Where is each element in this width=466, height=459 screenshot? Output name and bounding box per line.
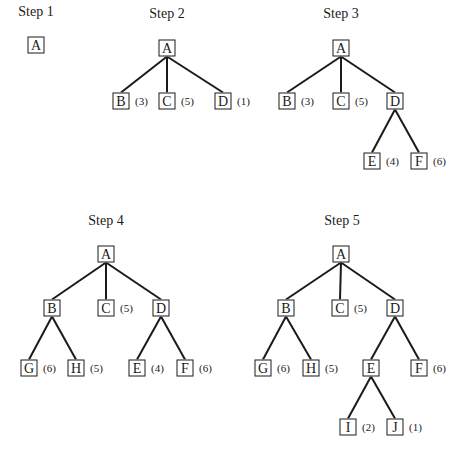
node-A: A [28,37,45,54]
node-cost-label: (2) [362,421,375,433]
node-cost-label: (1) [237,95,250,107]
node-cost-label: (5) [90,362,103,374]
edge-A-B [121,57,167,93]
node-A: A [98,246,115,263]
node-A: A [159,40,176,57]
node-cost-label: (6) [433,362,446,374]
node-G: G [255,360,272,377]
node-B: B [113,93,130,110]
node-cost-label: (6) [43,362,56,374]
step-title: Step 5 [324,213,359,229]
node-H: H [303,360,320,377]
edge-D-E [372,110,395,153]
node-A: A [333,40,350,57]
node-H: H [68,360,85,377]
node-D: D [387,300,404,317]
node-J: J [387,419,404,436]
edge-B-G [29,317,52,360]
node-cost-label: (6) [433,155,446,167]
step-title: Step 1 [18,4,53,20]
edge-B-H [286,317,311,360]
edge-D-F [161,317,185,360]
edge-A-D [167,57,223,93]
node-cost-label: (6) [277,362,290,374]
node-I: I [340,419,357,436]
edge-A-C [340,263,341,300]
edges-layer [0,0,466,459]
edge-A-B [287,57,341,93]
node-C: C [332,300,349,317]
edge-D-F [395,317,419,360]
node-C: C [98,300,115,317]
step-title: Step 3 [323,6,358,22]
node-cost-label: (4) [386,155,399,167]
node-F: F [177,360,194,377]
node-D: D [153,300,170,317]
edge-B-H [52,317,76,360]
edge-D-E [137,317,161,360]
edge-A-D [341,57,395,93]
edge-D-E [371,317,395,360]
node-C: C [159,93,176,110]
node-E: E [364,153,381,170]
edge-D-F [395,110,419,153]
node-A: A [333,246,350,263]
node-G: G [21,360,38,377]
node-cost-label: (1) [409,421,422,433]
node-cost-label: (4) [151,362,164,374]
node-cost-label: (3) [301,95,314,107]
node-E: E [363,360,380,377]
step-title: Step 4 [88,213,123,229]
edge-A-B [52,263,106,300]
edge-E-I [348,377,371,419]
node-cost-label: (5) [181,95,194,107]
node-F: F [411,360,428,377]
edge-A-D [341,263,395,300]
node-F: F [411,153,428,170]
edge-A-D [106,263,161,300]
node-B: B [278,300,295,317]
edge-E-J [371,377,395,419]
edge-A-B [286,263,341,300]
node-cost-label: (6) [199,362,212,374]
node-B: B [279,93,296,110]
node-D: D [387,93,404,110]
node-B: B [44,300,61,317]
node-E: E [129,360,146,377]
node-cost-label: (3) [135,95,148,107]
node-cost-label: (5) [120,302,133,314]
node-C: C [333,93,350,110]
node-cost-label: (5) [354,302,367,314]
node-cost-label: (5) [325,362,338,374]
node-cost-label: (5) [355,95,368,107]
node-D: D [215,93,232,110]
edge-B-G [263,317,286,360]
step-title: Step 2 [149,6,184,22]
